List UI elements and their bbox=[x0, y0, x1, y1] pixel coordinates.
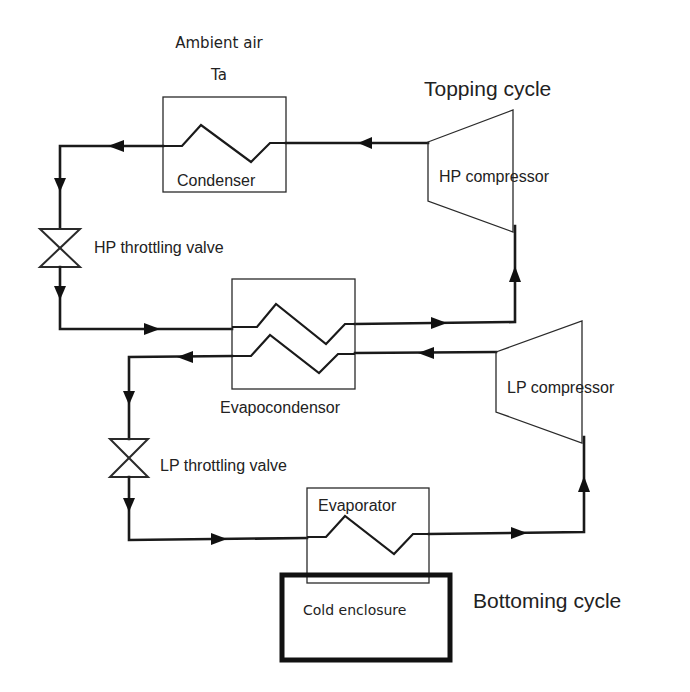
pipe-lp-suction bbox=[429, 437, 584, 534]
hp-compressor-label: HP compressor bbox=[439, 168, 550, 185]
cascade-refrigeration-diagram: Ambient air Ta Topping cycle Condenser H… bbox=[0, 0, 690, 692]
evaporator-label: Evaporator bbox=[318, 497, 397, 514]
pipe-condenser-outlet bbox=[60, 146, 163, 228]
flow-arrow-down-icon bbox=[123, 391, 135, 405]
flow-arrow-left-icon bbox=[177, 351, 193, 363]
flow-arrow-right-icon bbox=[211, 533, 227, 545]
condenser-coil-icon bbox=[163, 125, 286, 162]
flow-arrow-right-icon bbox=[431, 317, 447, 329]
evapocondensor-bottom-coil-icon bbox=[232, 335, 355, 373]
evaporator-coil-icon bbox=[307, 516, 429, 554]
cold-enclosure-label: Cold enclosure bbox=[303, 602, 406, 618]
lp-compressor-label: LP compressor bbox=[507, 379, 615, 396]
flow-arrow-left-icon bbox=[108, 140, 124, 152]
flow-arrow-down-icon bbox=[123, 498, 135, 512]
flow-arrow-left-icon bbox=[358, 137, 372, 149]
evapocondensor-label: Evapocondensor bbox=[220, 399, 341, 416]
ambient-air-label: Ambient air bbox=[175, 34, 263, 52]
pipe-lp-valve-outlet bbox=[129, 477, 307, 540]
ambient-temp-label: Ta bbox=[210, 66, 227, 84]
flow-arrow-down-icon bbox=[54, 178, 66, 192]
topping-cycle-label: Topping cycle bbox=[424, 77, 551, 100]
lp-throttling-valve-icon bbox=[110, 439, 148, 477]
bottoming-cycle-label: Bottoming cycle bbox=[473, 589, 621, 612]
evapocondensor bbox=[232, 279, 355, 389]
hp-throttling-valve-icon bbox=[40, 229, 80, 267]
pipe-hp-suction bbox=[355, 226, 515, 324]
flow-arrow-down-icon bbox=[54, 286, 66, 300]
hp-throttling-valve-label: HP throttling valve bbox=[94, 239, 224, 256]
evapocondensor-top-coil-icon bbox=[232, 304, 355, 344]
pipe-evapocondensor-outlet bbox=[129, 356, 232, 439]
pipe-hp-valve-outlet bbox=[60, 267, 232, 329]
lp-throttling-valve-label: LP throttling valve bbox=[160, 457, 287, 474]
flow-arrow-up-icon bbox=[509, 266, 521, 282]
flow-arrow-right-icon bbox=[144, 323, 160, 335]
topping-cycle bbox=[40, 97, 521, 335]
flow-arrow-up-icon bbox=[578, 476, 590, 492]
flow-arrow-right-icon bbox=[511, 527, 527, 539]
condenser-label: Condenser bbox=[177, 172, 256, 189]
flow-arrow-left-icon bbox=[418, 347, 434, 359]
